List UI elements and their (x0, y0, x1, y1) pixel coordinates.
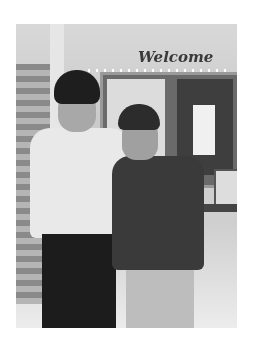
welcome-sign: Welcome (138, 48, 213, 66)
photo: Welcome (16, 24, 237, 328)
picture-frame (214, 169, 237, 207)
person-left-pants (42, 234, 116, 328)
person-right-pants (126, 270, 194, 328)
person-right-shirt (112, 156, 204, 270)
person-left-beanie (54, 70, 100, 104)
board-paper (193, 105, 215, 155)
